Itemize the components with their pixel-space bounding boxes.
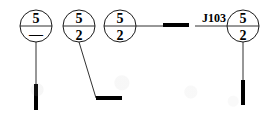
- balloon-4-upper-value: 5: [240, 11, 247, 26]
- callout-diagram: 5 — 5 2 5 2 J103 5 2: [0, 0, 265, 115]
- balloon-1-lower-value: —: [28, 27, 44, 42]
- balloon-group-3[interactable]: 5 2: [104, 10, 189, 43]
- balloon-2-upper-value: 5: [76, 11, 83, 26]
- balloon-4-lower-value: 2: [240, 28, 247, 43]
- balloon-2-lower-value: 2: [76, 28, 83, 43]
- balloon-1-upper-value: 5: [33, 11, 40, 26]
- balloon-group-1[interactable]: 5 —: [20, 10, 52, 110]
- reference-label-j103: J103: [202, 11, 226, 25]
- leader-line-2: [79, 42, 96, 98]
- balloon-3-lower-value: 2: [117, 28, 124, 43]
- balloon-3-upper-value: 5: [117, 11, 124, 26]
- balloon-group-4[interactable]: J103 5 2: [195, 10, 259, 105]
